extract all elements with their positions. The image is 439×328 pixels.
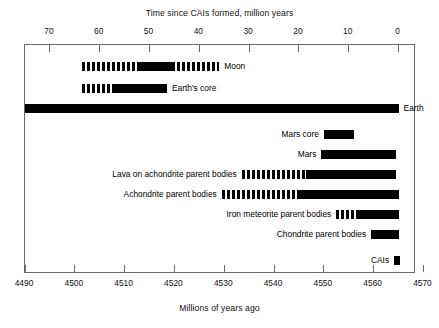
bar-segment-solid [299, 190, 399, 199]
tick-label: 30 [243, 26, 252, 36]
bar-segment-dashed [222, 190, 299, 199]
tick-mark [249, 45, 250, 52]
bar-label: Iron meteorite parent bodies [227, 209, 332, 220]
tick-label: 4520 [164, 278, 183, 288]
tick-label: 4560 [363, 278, 382, 288]
tick-mark [398, 45, 399, 52]
bar-row: Moon [25, 61, 416, 73]
bar-label: Earth [404, 103, 424, 114]
tick-mark [149, 45, 150, 52]
tick-mark [348, 45, 349, 52]
tick-label: 20 [293, 26, 302, 36]
timeline-chart: Time since CAIs formed, million years 70… [0, 0, 439, 328]
bottom-axis-tick-labels: 449045004510452045304540455045604570 [0, 278, 439, 290]
bar-label: Moon [224, 61, 245, 72]
bar-label: Earth's core [172, 83, 216, 94]
bar-row: CAIs [25, 255, 416, 267]
tick-mark [99, 45, 100, 52]
tick-label: 10 [343, 26, 352, 36]
bar-segment-solid [371, 230, 398, 239]
tick-mark [298, 45, 299, 52]
tick-label: 0 [395, 26, 400, 36]
bar-segment-solid [324, 130, 354, 139]
bar-segment-dashed [242, 170, 307, 179]
bar-label: Mars core [282, 129, 319, 140]
tick-label: 40 [194, 26, 203, 36]
tick-label: 4540 [264, 278, 283, 288]
top-axis-tick-labels: 706050403020100 [0, 26, 439, 38]
bar-segment-dashed [82, 84, 112, 93]
bar-row: Earth's core [25, 83, 416, 95]
bar-segment-solid [140, 62, 172, 71]
bar-row: Chondrite parent bodies [25, 229, 416, 241]
bar-label: Lava on achondrite parent bodies [112, 169, 236, 180]
bar-row: Mars core [25, 129, 416, 141]
bar-row: Iron meteorite parent bodies [25, 209, 416, 221]
tick-label: 60 [94, 26, 103, 36]
bar-row: Lava on achondrite parent bodies [25, 169, 416, 181]
bar-label: Achondrite parent bodies [124, 189, 217, 200]
bar-segment-dashed [82, 62, 139, 71]
tick-label: 70 [44, 26, 53, 36]
bar-label: CAIs [371, 255, 389, 266]
tick-mark [49, 45, 50, 52]
tick-label: 4550 [314, 278, 333, 288]
tick-label: 4490 [15, 278, 34, 288]
plot-area: MoonEarth's coreEarthMars coreMarsLava o… [24, 44, 415, 273]
tick-label: 4570 [413, 278, 432, 288]
tick-mark [423, 265, 424, 272]
bar-segment-solid [306, 170, 396, 179]
bar-label: Chondrite parent bodies [277, 229, 366, 240]
bar-segment-solid [112, 84, 167, 93]
tick-label: 4530 [214, 278, 233, 288]
bar-segment-solid [356, 210, 398, 219]
tick-mark [199, 45, 200, 52]
bar-row: Earth [25, 103, 416, 115]
tick-label: 50 [144, 26, 153, 36]
bar-segment-solid [25, 104, 399, 113]
tick-label: 4510 [114, 278, 133, 288]
bottom-axis-title: Millions of years ago [0, 303, 439, 313]
bar-segment-solid [394, 256, 400, 265]
top-axis-title: Time since CAIs formed, million years [0, 8, 439, 18]
bar-segment-dashed [172, 62, 219, 71]
bar-segment-dashed [336, 210, 356, 219]
bar-row: Achondrite parent bodies [25, 189, 416, 201]
tick-label: 4500 [64, 278, 83, 288]
bar-label: Mars [298, 149, 317, 160]
bar-row: Mars [25, 149, 416, 161]
bar-segment-solid [321, 150, 396, 159]
